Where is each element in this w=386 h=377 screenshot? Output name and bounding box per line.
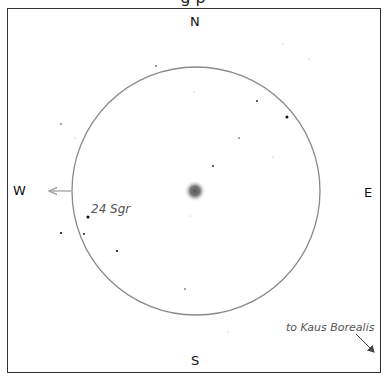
star: [309, 59, 310, 60]
star: [75, 138, 76, 139]
nebula-target: [184, 180, 206, 202]
star: [238, 137, 239, 138]
star: [212, 165, 214, 167]
star: [282, 43, 283, 44]
star: [60, 123, 61, 124]
east-label: E: [364, 185, 372, 200]
kaus-borealis-arrow: [356, 334, 374, 352]
star: [194, 92, 195, 93]
star: [86, 215, 89, 218]
star: [83, 233, 85, 235]
south-label: S: [191, 353, 199, 368]
star: [155, 65, 157, 67]
west-label: W: [13, 183, 26, 198]
kaus-borealis-label: to Kaus Borealis: [286, 321, 374, 334]
north-label: N: [190, 14, 200, 29]
star: [116, 250, 118, 252]
star: [256, 100, 258, 102]
star: [272, 156, 273, 157]
star: [60, 232, 62, 234]
star-label-24-sgr: 24 Sgr: [91, 202, 130, 216]
star: [190, 216, 191, 217]
star: [184, 288, 185, 289]
star: [286, 116, 289, 119]
star: [228, 332, 229, 333]
